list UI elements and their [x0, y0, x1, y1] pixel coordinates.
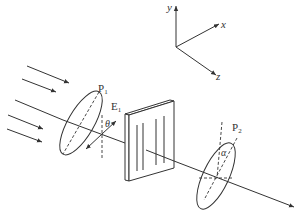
ray-line	[15, 100, 63, 120]
sample-plate	[125, 100, 174, 181]
polarizer-p2	[189, 122, 243, 214]
y-axis-label: y	[166, 1, 172, 13]
x-axis	[176, 24, 219, 47]
z-axis	[176, 47, 216, 75]
p1-label: P1	[98, 82, 108, 96]
main-beam	[63, 120, 294, 207]
ray-arrow	[8, 115, 43, 129]
incoming-rays	[7, 66, 69, 142]
ray-arrow	[7, 129, 42, 142]
x-axis-label: x	[220, 18, 226, 30]
p2-label: P2	[232, 121, 242, 135]
beam-segment-2	[174, 161, 294, 207]
beam-segment-1	[63, 120, 125, 143]
ray-arrow	[22, 79, 56, 92]
plate-front-face	[129, 101, 174, 181]
diagram-canvas: y x z P1 E1 θ P2	[0, 0, 299, 218]
coordinate-axes	[176, 6, 219, 75]
e1-label: E1	[111, 100, 122, 114]
z-axis-label: z	[215, 70, 221, 82]
polarizer-p1	[52, 85, 111, 160]
theta-label: θ	[105, 118, 110, 129]
plate-side-edge	[125, 114, 129, 181]
ray-arrow	[27, 66, 69, 83]
alpha-label: α	[221, 147, 227, 158]
polarizer-p2-ellipse	[189, 138, 243, 214]
